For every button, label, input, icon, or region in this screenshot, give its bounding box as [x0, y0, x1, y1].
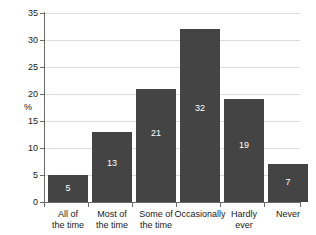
y-tick-30 — [40, 40, 44, 41]
x-tick-2 — [132, 203, 133, 207]
y-tick-5 — [40, 175, 44, 176]
x-tick-4 — [220, 203, 221, 207]
y-tick-15 — [40, 121, 44, 122]
x-label-line2: the time — [88, 220, 136, 231]
y-tick-label-30: 30 — [2, 36, 38, 45]
bar-value-label: 5 — [48, 184, 88, 193]
bar-hardly-ever: 19 — [224, 99, 264, 202]
bar-occasionally: 32 — [180, 29, 220, 202]
x-tick-0 — [44, 203, 45, 207]
y-tick-20 — [40, 94, 44, 95]
x-label-hardly-ever: Hardly ever — [220, 209, 268, 231]
y-axis-line — [44, 12, 45, 203]
x-label-never: Never — [264, 209, 312, 220]
gridline-30 — [44, 40, 300, 41]
bar-all-of-the-time: 5 — [48, 175, 88, 202]
x-axis-line — [44, 202, 301, 203]
x-label-line2: the time — [132, 220, 180, 231]
x-label-line2: the time — [44, 220, 92, 231]
bar-never: 7 — [268, 164, 308, 202]
x-tick-3 — [176, 203, 177, 207]
y-tick-10 — [40, 148, 44, 149]
x-label-all-of-the-time: All of the time — [44, 209, 92, 231]
x-label-line2: ever — [220, 220, 268, 231]
x-label-most-of-the-time: Most of the time — [88, 209, 136, 231]
x-label-line1: All of — [44, 209, 92, 220]
bar-some-of-the-time: 21 — [136, 89, 176, 202]
bar-value-label: 19 — [224, 141, 264, 150]
y-tick-label-20: 20 — [2, 90, 38, 99]
y-tick-label-5: 5 — [2, 171, 38, 180]
y-axis-label: % — [24, 103, 32, 112]
x-tick-6 — [300, 203, 301, 207]
gridline-35 — [44, 13, 300, 14]
x-tick-5 — [264, 203, 265, 207]
x-label-line1: Never — [264, 209, 312, 220]
bar-most-of-the-time: 13 — [92, 132, 132, 202]
bar-chart: 5 13 21 32 19 7 35 30 25 20 15 10 5 0 % — [0, 0, 316, 235]
bar-value-label: 21 — [136, 129, 176, 138]
y-tick-label-10: 10 — [2, 144, 38, 153]
gridline-25 — [44, 67, 300, 68]
x-label-line1: Most of — [88, 209, 136, 220]
bar-value-label: 32 — [180, 104, 220, 113]
y-tick-label-35: 35 — [2, 9, 38, 18]
x-tick-1 — [88, 203, 89, 207]
bar-value-label: 7 — [268, 178, 308, 187]
y-tick-label-25: 25 — [2, 63, 38, 72]
y-tick-label-0: 0 — [2, 198, 38, 207]
y-tick-25 — [40, 67, 44, 68]
bar-value-label: 13 — [92, 159, 132, 168]
y-tick-label-15: 15 — [2, 117, 38, 126]
y-tick-35 — [40, 13, 44, 14]
x-label-line1: Hardly — [220, 209, 268, 220]
plot-area: 5 13 21 32 19 7 — [44, 13, 300, 202]
